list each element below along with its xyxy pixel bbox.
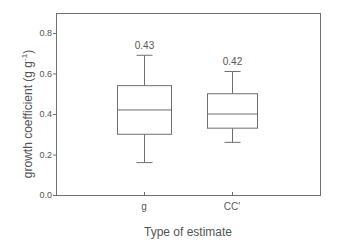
y-axis-title-text: growth coefficient (g g [21, 61, 35, 178]
y-tick-label: 0.0 [39, 190, 52, 200]
plot-border [57, 14, 321, 196]
y-axis: 0.00.20.40.60.8 [39, 28, 56, 200]
plot-frame [57, 14, 321, 196]
x-tick-label: CC' [224, 201, 240, 212]
box-plot-chart: 0.00.20.40.60.8 gCC' 0.430.42 Type of es… [0, 0, 338, 249]
box-g: 0.43 [118, 40, 172, 162]
y-tick-label: 0.2 [39, 150, 52, 160]
x-axis-title: Type of estimate [144, 225, 232, 239]
y-tick-label: 0.4 [39, 109, 52, 119]
y-tick-label: 0.8 [39, 28, 52, 38]
interquartile-box [208, 94, 258, 128]
y-tick-label: 0.6 [39, 69, 52, 79]
y-axis-title: growth coefficient (g g-1) [20, 50, 35, 178]
boxes: 0.430.42 [118, 40, 258, 162]
mean-annotation: 0.42 [223, 56, 243, 67]
y-axis-title-close: ) [21, 50, 35, 54]
x-tick-label: g [141, 201, 147, 212]
box-cc: 0.42 [208, 56, 258, 142]
mean-annotation: 0.43 [135, 40, 155, 51]
